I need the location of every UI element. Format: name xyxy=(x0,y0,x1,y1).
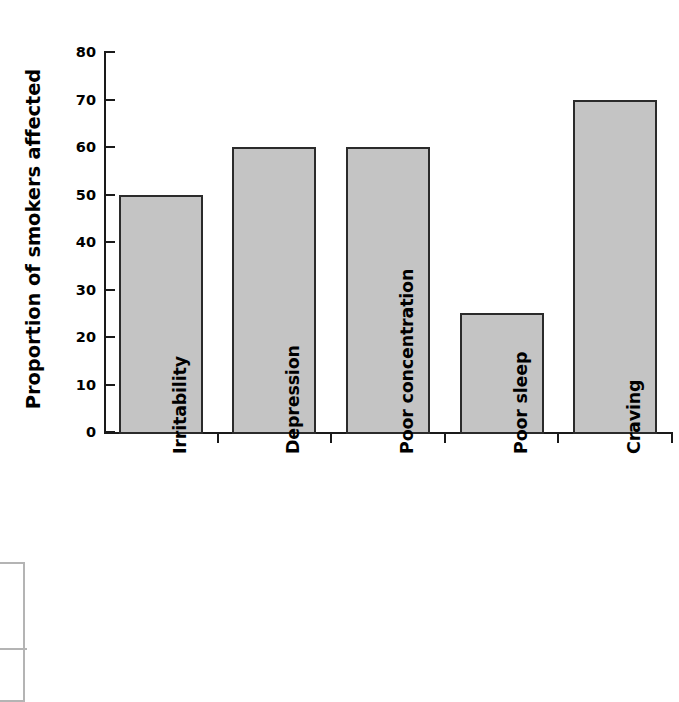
y-axis-tick-label: 60 xyxy=(52,140,96,154)
y-axis-tick-label: 10 xyxy=(52,378,96,392)
y-axis-tick-label: 30 xyxy=(52,283,96,297)
bar xyxy=(119,195,203,435)
table-fragment-divider xyxy=(0,648,27,650)
y-axis-tick-label: 0 xyxy=(52,425,96,439)
cropped-table-fragment xyxy=(0,562,25,702)
y-axis-tick xyxy=(104,384,115,386)
x-axis-category-label: Irritability xyxy=(170,356,190,454)
y-axis-tick-label: 50 xyxy=(52,188,96,202)
x-axis-tick xyxy=(671,432,673,443)
y-axis-tick-label: 70 xyxy=(52,93,96,107)
y-axis-tick xyxy=(104,194,115,196)
x-axis-tick xyxy=(217,432,219,443)
y-axis-tick xyxy=(104,431,115,433)
x-axis-tick xyxy=(330,432,332,443)
y-axis-tick-label: 40 xyxy=(52,235,96,249)
bar xyxy=(346,147,430,434)
y-axis-tick-label: 20 xyxy=(52,330,96,344)
x-axis-category-label: Craving xyxy=(624,380,644,454)
bar xyxy=(232,147,316,434)
y-axis-tick xyxy=(104,99,115,101)
x-axis-tick xyxy=(444,432,446,443)
y-axis-tick xyxy=(104,336,115,338)
x-axis-category-label: Depression xyxy=(283,345,303,454)
y-axis-tick xyxy=(104,241,115,243)
x-axis-tick xyxy=(557,432,559,443)
x-axis-category-label: Poor concentration xyxy=(397,269,417,454)
y-axis-tick xyxy=(104,51,115,53)
y-axis-title: Proportion of smokers affected xyxy=(19,29,49,449)
x-axis-category-label: Poor sleep xyxy=(511,352,531,454)
y-axis-tick-label: 80 xyxy=(52,45,96,59)
y-axis-tick xyxy=(104,289,115,291)
y-axis-tick xyxy=(104,146,115,148)
bar xyxy=(573,100,657,435)
